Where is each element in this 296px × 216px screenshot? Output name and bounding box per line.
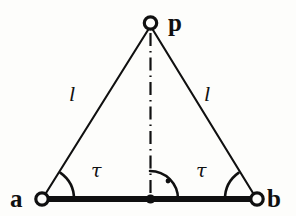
vertex-label-a: a [10,186,23,211]
angle-arc-right [225,173,239,199]
right-angle-arc [150,171,178,199]
side-label-right: l [204,83,210,105]
side-label-left: l [69,83,75,105]
diagram-canvas [0,0,296,216]
vertex-marker-p [144,17,156,29]
right-angle-dot-icon [166,179,171,184]
angle-arc-left [61,173,75,199]
geometry-diagram-figure: a b p l l τ τ [0,0,296,216]
angle-label-tau-left: τ [91,161,102,180]
vertex-marker-a [36,193,48,205]
midpoint-dot-marker [146,194,155,203]
vertex-label-p: p [168,10,182,35]
vertex-label-b: b [267,186,281,211]
angle-label-tau-right: τ [196,161,207,180]
vertex-marker-b [251,193,263,205]
